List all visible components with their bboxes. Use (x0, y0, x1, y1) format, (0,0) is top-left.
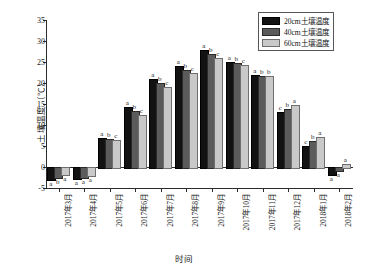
x-axis-line (46, 188, 353, 189)
legend-item: 60cm土壤温度 (262, 37, 329, 48)
x-axis-title: 时间 (0, 252, 367, 264)
x-tick (161, 188, 162, 192)
significance-letter: c (111, 132, 120, 140)
x-tick-label: 2017年9月 (215, 194, 226, 227)
bar (189, 73, 198, 170)
legend-swatch (262, 39, 280, 47)
x-tick (84, 188, 85, 192)
x-tick-label: 2017年6月 (138, 194, 149, 227)
bar (214, 58, 223, 169)
significance-letter: a (334, 171, 343, 179)
x-tick (263, 188, 264, 192)
x-tick (186, 188, 187, 192)
x-tick (288, 188, 289, 192)
significance-letter: c (188, 65, 197, 73)
bar (112, 140, 121, 169)
legend-item: 20cm土壤温度 (262, 15, 329, 26)
x-tick (110, 188, 111, 192)
y-tick-label: 30 (25, 37, 45, 46)
significance-letter: a (290, 97, 299, 105)
bar (316, 137, 325, 169)
y-tick-label: -5 (25, 184, 45, 193)
x-tick-label: 2017年12月 (291, 194, 302, 231)
x-tick (212, 188, 213, 192)
x-tick (339, 188, 340, 192)
x-tick-label: 2017年4月 (87, 194, 98, 227)
significance-letter: c (137, 107, 146, 115)
y-tick-label: 35 (25, 16, 45, 25)
x-tick (314, 188, 315, 192)
x-tick-label: 2018年2月 (342, 194, 353, 227)
bar (240, 65, 249, 169)
significance-letter: b (264, 68, 273, 76)
chart-root: { "chart_data": { "type": "bar", "title"… (0, 0, 367, 273)
x-tick (135, 188, 136, 192)
bar (138, 115, 147, 170)
chart-legend: 20cm土壤温度40cm土壤温度60cm土壤温度 (258, 12, 334, 51)
bar (163, 87, 172, 169)
x-tick-label: 2017年3月 (62, 194, 73, 227)
x-tick-label: 2017年10月 (240, 194, 251, 231)
x-tick-label: 2018年1月 (317, 194, 328, 227)
bar (291, 105, 300, 169)
x-tick (59, 188, 60, 192)
legend-label: 60cm土壤温度 (284, 37, 329, 48)
significance-letter: a (60, 175, 69, 183)
x-tick-label: 2017年7月 (164, 194, 175, 227)
bar (265, 76, 274, 169)
x-tick (237, 188, 238, 192)
significance-letter: a (86, 176, 95, 184)
x-tick-label: 2017年5月 (113, 194, 124, 227)
bar (342, 164, 351, 169)
significance-letter: a (341, 156, 350, 164)
legend-label: 40cm土壤温度 (284, 26, 329, 37)
y-axis-title: 土壤温度（℃） (34, 50, 46, 170)
legend-label: 20cm土壤温度 (284, 15, 329, 26)
legend-item: 40cm土壤温度 (262, 26, 329, 37)
significance-letter: c (213, 50, 222, 58)
significance-letter: a (315, 129, 324, 137)
legend-swatch (262, 28, 280, 36)
x-tick-label: 2017年11月 (266, 194, 277, 230)
x-tick-label: 2017年8月 (189, 194, 200, 227)
significance-letter: c (162, 79, 171, 87)
significance-letter: c (239, 57, 248, 65)
legend-swatch (262, 17, 280, 25)
